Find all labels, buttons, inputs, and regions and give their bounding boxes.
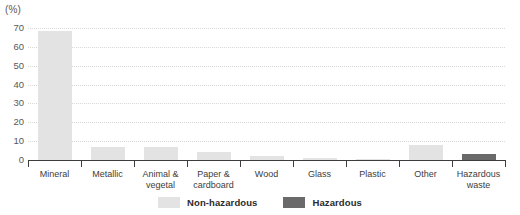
y-axis-tick-label: 10 — [2, 136, 24, 146]
x-axis-category-label: Animal &vegetal — [134, 169, 187, 191]
waste-composition-bar-chart: (%) 010203040506070 MineralMetallicAnima… — [0, 0, 520, 215]
y-axis-tick-label: 0 — [2, 155, 24, 165]
bar-series-group — [28, 28, 505, 160]
legend-swatch-icon — [283, 197, 305, 208]
x-axis-category-label: Mineral — [28, 169, 81, 180]
x-axis-tick — [505, 160, 506, 167]
x-axis-category-label: Hazardouswaste — [452, 169, 505, 191]
x-axis-tick — [134, 160, 135, 167]
x-axis-category-labels: MineralMetallicAnimal &vegetalPaper &car… — [28, 169, 505, 199]
x-axis-category-label: Metallic — [81, 169, 134, 180]
bar-slot — [399, 28, 452, 160]
bar-slot — [187, 28, 240, 160]
x-axis-category-label: Plastic — [346, 169, 399, 180]
y-axis-tick-label: 20 — [2, 118, 24, 128]
x-axis-category-label: Paper &cardboard — [187, 169, 240, 191]
y-axis-tick-label: 50 — [2, 61, 24, 71]
bar — [38, 31, 72, 160]
x-axis-category-label: Glass — [293, 169, 346, 180]
x-axis-tick — [452, 160, 453, 167]
legend-label: Non-hazardous — [187, 197, 257, 208]
y-axis-tick-label: 60 — [2, 42, 24, 52]
x-axis-tick — [346, 160, 347, 167]
x-axis-tick — [399, 160, 400, 167]
y-axis-tick-labels: 010203040506070 — [0, 28, 24, 160]
x-axis-baseline — [28, 160, 505, 161]
bar-slot — [452, 28, 505, 160]
legend-item-nonhazardous[interactable]: Non-hazardous — [158, 197, 257, 208]
y-axis-unit-label: (%) — [5, 4, 21, 15]
bar — [144, 147, 178, 160]
x-axis-tick — [187, 160, 188, 167]
bar-slot — [28, 28, 81, 160]
bar — [409, 145, 443, 160]
legend-label: Hazardous — [312, 197, 361, 208]
x-axis-category-label: Other — [399, 169, 452, 180]
chart-legend: Non-hazardousHazardous — [0, 197, 520, 208]
y-axis-tick-label: 40 — [2, 80, 24, 90]
bar-slot — [293, 28, 346, 160]
x-axis-tick — [240, 160, 241, 167]
x-axis-tick — [81, 160, 82, 167]
legend-item-hazardous[interactable]: Hazardous — [283, 197, 361, 208]
x-axis-tick — [28, 160, 29, 167]
y-axis-tick-label: 70 — [2, 23, 24, 33]
y-axis-tick-label: 30 — [2, 99, 24, 109]
bar-slot — [346, 28, 399, 160]
bar — [197, 152, 231, 160]
bar — [91, 147, 125, 160]
x-axis-category-label: Wood — [240, 169, 293, 180]
bar-slot — [81, 28, 134, 160]
legend-swatch-icon — [158, 197, 180, 208]
bar-slot — [134, 28, 187, 160]
bar-slot — [240, 28, 293, 160]
x-axis-tick — [293, 160, 294, 167]
